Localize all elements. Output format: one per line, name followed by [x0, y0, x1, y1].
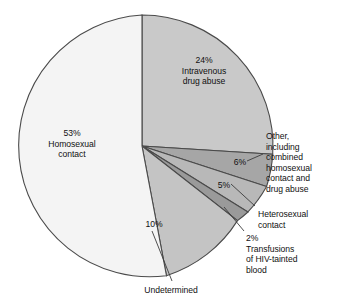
slice-label-undetermined: Undetermined [130, 285, 212, 296]
slice-label-other: Other, including combined homosexual con… [266, 131, 348, 195]
pie-chart: 53% Homosexual contact 24% Intravenous d… [0, 0, 349, 307]
slice-percent-heterosexual: 5% [210, 180, 230, 191]
slice-label-heterosexual: Heterosexual contact [258, 209, 344, 230]
slice-label-homosexual: 53% Homosexual contact [24, 128, 120, 160]
slice-label-ivdrug: 24% Intravenous drug abuse [158, 55, 250, 87]
slice-percent-undetermined: 10% [140, 219, 168, 230]
slice-percent-other: 6% [224, 157, 246, 168]
slice-label-transfusions: 2% Transfusions of HIV-tainted blood [246, 233, 346, 275]
